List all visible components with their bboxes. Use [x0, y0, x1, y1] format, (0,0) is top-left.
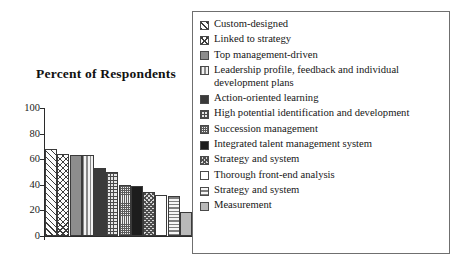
y-axis-tick-label: 40: [30, 180, 41, 191]
bar-chart-figure: Percent of Respondents 100806040200 Cust…: [0, 0, 463, 271]
x-axis-origin-tick: [44, 236, 45, 240]
legend-swatch-icon: [200, 95, 209, 104]
legend-item[interactable]: Leadership profile, feedback and individ…: [200, 64, 443, 90]
legend-swatch-icon: [200, 202, 209, 211]
legend-item[interactable]: Measurement: [200, 199, 443, 212]
bar: [119, 185, 131, 236]
legend-swatch-icon: [200, 187, 209, 196]
bar: [180, 212, 192, 236]
legend-swatch-icon: [200, 141, 209, 150]
legend-item[interactable]: Strategy and system: [200, 153, 443, 166]
legend-item[interactable]: Linked to strategy: [200, 33, 443, 46]
legend-swatch-icon: [200, 36, 209, 45]
y-axis-tick-labels: 100806040200: [14, 108, 40, 236]
bar: [131, 186, 143, 236]
legend-item-label: Strategy and system: [214, 153, 299, 166]
bar: [106, 172, 118, 236]
y-axis-tick-label: 80: [30, 128, 41, 139]
x-axis-line: [40, 236, 192, 237]
legend-item-label: Strategy and system: [214, 184, 299, 197]
legend-item-label: Action-oriented learning: [214, 92, 318, 105]
y-axis-tick-label: 60: [30, 154, 41, 165]
page-title: Percent of Respondents: [18, 66, 194, 82]
legend-item[interactable]: High potential identification and develo…: [200, 107, 443, 120]
legend-item-label: Integrated talent management system: [214, 138, 372, 151]
legend-swatch-icon: [200, 171, 209, 180]
bar: [168, 196, 180, 236]
plot-area: 100806040200: [14, 108, 194, 248]
bar: [82, 155, 94, 236]
legend-swatch-icon: [200, 156, 209, 165]
bar-series: [45, 108, 192, 236]
bar: [143, 192, 155, 236]
y-axis-tick-label: 100: [24, 103, 40, 114]
y-axis-tick-label: 20: [30, 205, 41, 216]
bar: [155, 195, 167, 236]
legend-item-label: Measurement: [214, 199, 272, 212]
legend-item-label: Thorough front-end analysis: [214, 169, 335, 182]
legend-item[interactable]: Custom-designed: [200, 18, 443, 31]
legend-item-label: Top management-driven: [214, 49, 318, 62]
legend-item[interactable]: Succession management: [200, 123, 443, 136]
legend-swatch-icon: [200, 21, 209, 30]
legend-item[interactable]: Integrated talent management system: [200, 138, 443, 151]
legend-swatch-icon: [200, 125, 209, 134]
legend-swatch-icon: [200, 51, 209, 60]
legend-item[interactable]: Thorough front-end analysis: [200, 169, 443, 182]
legend-item-label: Custom-designed: [214, 18, 288, 31]
legend-item[interactable]: Top management-driven: [200, 49, 443, 62]
bar: [94, 168, 106, 236]
legend-swatch-icon: [200, 110, 209, 119]
bar: [57, 154, 69, 236]
bar: [70, 155, 82, 236]
legend: Custom-designedLinked to strategyTop man…: [192, 11, 450, 254]
legend-item-label: Linked to strategy: [214, 33, 291, 46]
legend-item-label: High potential identification and develo…: [214, 107, 409, 120]
legend-swatch-icon: [200, 66, 209, 75]
legend-item[interactable]: Strategy and system: [200, 184, 443, 197]
legend-item[interactable]: Action-oriented learning: [200, 92, 443, 105]
legend-item-label: Succession management: [214, 123, 318, 136]
legend-item-label: Leadership profile, feedback and individ…: [214, 64, 443, 90]
bar: [45, 149, 57, 236]
